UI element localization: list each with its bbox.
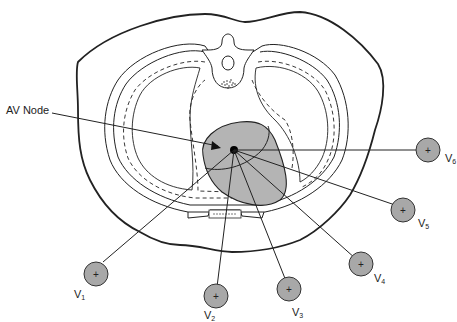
lead-number: 5 <box>425 223 429 230</box>
electrode-v1[interactable]: + <box>84 262 108 286</box>
av-node-pointer-line <box>52 113 218 146</box>
plus-icon: + <box>93 269 99 280</box>
lead-label-v3: V3 <box>292 306 303 319</box>
right-lung <box>132 67 200 190</box>
av-node-label: AV Node <box>6 104 49 116</box>
electrode-v6[interactable]: + <box>416 138 440 162</box>
electrode-v5[interactable]: + <box>391 198 415 222</box>
lead-label-v1: V1 <box>74 288 85 301</box>
lead-label-v4: V4 <box>374 272 385 285</box>
lead-label-v5: V5 <box>418 217 429 230</box>
plus-icon: + <box>425 145 431 156</box>
lead-label-v6: V6 <box>445 152 456 165</box>
lead-number: 2 <box>211 315 215 322</box>
plus-icon: + <box>213 291 219 302</box>
lead-number: 3 <box>299 312 303 319</box>
plus-icon: + <box>400 205 406 216</box>
electrode-v3[interactable]: + <box>277 277 301 301</box>
plus-icon: + <box>286 284 292 295</box>
lead-number: 6 <box>452 158 456 165</box>
plus-icon: + <box>358 259 364 270</box>
lead-label-v2: V2 <box>204 309 215 322</box>
electrode-v2[interactable]: + <box>204 284 228 308</box>
electrode-v4[interactable]: + <box>349 252 373 276</box>
lead-number: 4 <box>381 278 385 285</box>
spinal-canal <box>222 56 234 70</box>
lead-line-v1 <box>103 150 234 262</box>
lead-number: 1 <box>81 294 85 301</box>
